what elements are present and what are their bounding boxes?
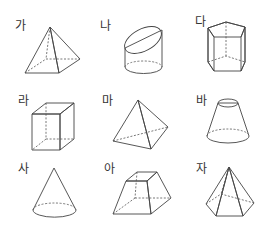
pentagonal-pyramid-icon	[0, 0, 268, 230]
